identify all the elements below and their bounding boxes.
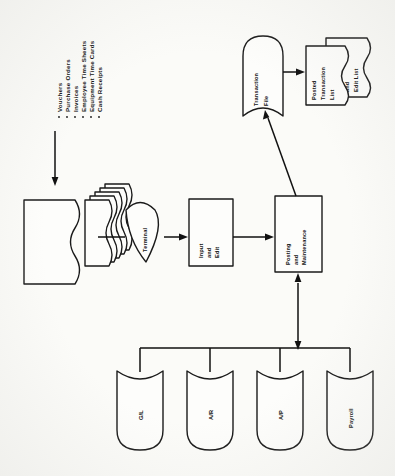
posted-transaction-list-node: Posted Transaction List	[306, 46, 349, 105]
connector-posting-to-master-files	[295, 273, 302, 350]
bullet-marks	[58, 116, 100, 118]
source-item-2: Invoices	[72, 85, 79, 112]
posted-list-label-2: Transaction	[320, 67, 326, 100]
connector-list-to-stack	[52, 131, 59, 186]
connector-terminal-to-input	[164, 234, 188, 241]
flowchart-page: Vouchers Purchase Orders Invoices Employ…	[0, 0, 395, 476]
master-file-gl: G/L	[117, 371, 163, 450]
input-edit-node: Input and Edit	[189, 199, 233, 266]
document-stack	[24, 184, 132, 284]
transaction-file-label-1: Transaction	[253, 73, 259, 106]
source-document-list: Vouchers Purchase Orders Invoices Employ…	[56, 40, 103, 118]
master-file-ap-label: A/P	[278, 410, 284, 420]
master-file-payroll-label: Payroll	[348, 408, 354, 428]
posting-label-3: Maintenance	[301, 229, 307, 265]
source-item-4: Equipment Time Cards	[88, 40, 95, 112]
master-file-payroll: Payroll	[327, 371, 373, 450]
master-file-ar-label: A/R	[208, 410, 214, 420]
connector-input-to-posting	[233, 234, 274, 241]
source-item-1: Purchase Orders	[64, 59, 71, 112]
input-edit-label-2: and	[206, 247, 212, 258]
source-item-5: Cash Receipts	[96, 66, 103, 112]
master-file-gl-label: G/L	[138, 410, 144, 420]
source-item-0: Vouchers	[56, 82, 63, 112]
posted-list-label-3: List	[329, 89, 335, 100]
flowchart-canvas: Vouchers Purchase Orders Invoices Employ…	[0, 0, 395, 476]
connector-posting-to-transaction-file	[263, 110, 296, 196]
terminal-node: Terminal	[126, 203, 158, 263]
connector-file-to-posted-list	[283, 69, 305, 76]
posting-label-2: and	[293, 254, 299, 265]
input-edit-label-3: Edit	[214, 247, 220, 258]
transaction-file-node: Transaction File	[243, 36, 283, 116]
source-item-3: Employee Time Sheets	[80, 40, 87, 112]
master-file-ap: A/P	[257, 371, 303, 450]
posting-maintenance-node: Posting and Maintenance	[275, 196, 322, 272]
posting-label-1: Posting	[285, 243, 291, 265]
master-file-ar: A/R	[187, 371, 233, 450]
input-edit-label-1: Input	[198, 244, 204, 258]
master-file-row: G/L A/R A/P Payroll	[117, 371, 373, 450]
transaction-file-label-2: File	[263, 96, 269, 106]
errors-edit-label-3: Edit List	[353, 69, 359, 92]
master-file-bus	[140, 348, 350, 372]
posted-list-label-1: Posted	[311, 80, 317, 100]
terminal-label: Terminal	[142, 228, 148, 252]
